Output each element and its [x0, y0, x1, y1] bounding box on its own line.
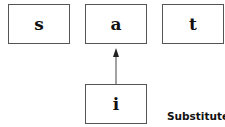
- caption-substitute: Substitute: [167, 110, 225, 122]
- edge-i-to-a-arrow-icon: [0, 0, 225, 127]
